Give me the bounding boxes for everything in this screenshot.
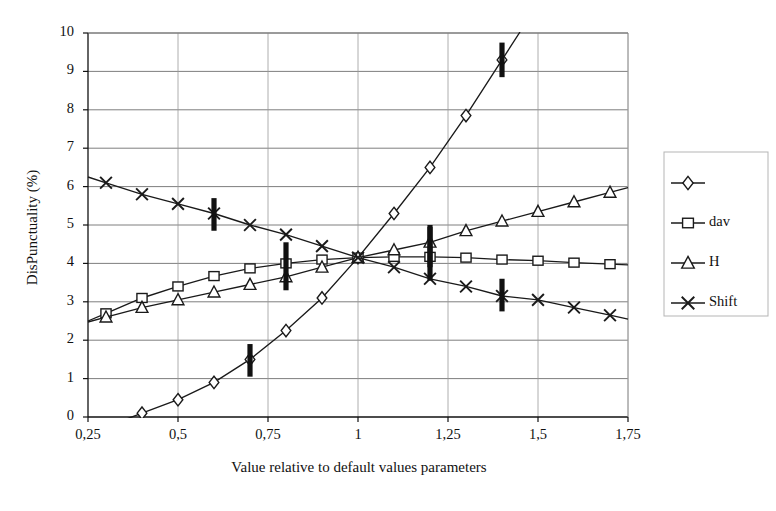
y-tick-label: 7 [44,138,74,155]
tick-marks [83,33,628,422]
x-tick-label: 1,25 [425,426,471,443]
x-tick-label: 0,25 [65,426,111,443]
legend-entry-label: H [709,253,719,270]
legend-box [664,152,768,316]
gridlines [88,33,628,417]
chart-figure: DisPunctuality (%) Value relative to def… [0,0,776,511]
y-tick-label: 8 [44,100,74,117]
y-axis-title: DisPunctuality (%) [24,133,41,323]
y-tick-label: 1 [44,369,74,386]
y-tick-label: 5 [44,215,74,232]
legend-entry-label: dav [709,213,730,230]
y-tick-label: 3 [44,292,74,309]
x-tick-label: 0,5 [155,426,201,443]
chart-canvas [0,0,776,511]
y-tick-label: 0 [44,407,74,424]
x-tick-label: 0,75 [245,426,291,443]
legend-entry-label: Shift [709,293,737,310]
y-tick-label: 4 [44,253,74,270]
y-tick-label: 10 [44,23,74,40]
y-tick-label: 9 [44,61,74,78]
x-axis-title: Value relative to default values paramet… [204,459,514,476]
y-tick-label: 6 [44,177,74,194]
x-tick-label: 1 [335,426,381,443]
x-tick-label: 1,5 [515,426,561,443]
y-tick-label: 2 [44,330,74,347]
x-tick-label: 1,75 [605,426,651,443]
